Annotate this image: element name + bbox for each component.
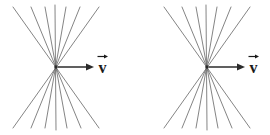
diagram-canvas: v v xyxy=(0,0,270,135)
right-velocity-arrow xyxy=(209,64,245,71)
left-velocity-label-accent xyxy=(98,55,109,59)
right-velocity-label-glyph: v xyxy=(250,59,258,76)
right-figure-vertex xyxy=(205,65,209,69)
left-velocity-label: v xyxy=(98,55,109,76)
left-velocity-arrow xyxy=(58,64,94,71)
right-velocity-label-accent xyxy=(249,55,260,59)
right-figure xyxy=(164,5,250,130)
diagram-svg: v v xyxy=(0,0,270,135)
left-figure-vertex xyxy=(54,65,58,69)
right-velocity-label: v xyxy=(249,55,260,76)
left-figure xyxy=(13,5,99,130)
left-velocity-label-glyph: v xyxy=(99,59,107,76)
